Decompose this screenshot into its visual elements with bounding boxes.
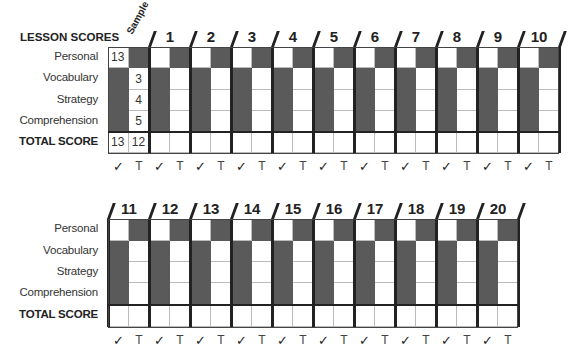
score-input-cell[interactable]	[272, 305, 293, 327]
score-input-cell[interactable]	[539, 68, 560, 90]
score-input-cell[interactable]	[293, 90, 314, 111]
score-input-cell[interactable]	[375, 283, 396, 305]
score-input-cell[interactable]	[293, 132, 314, 153]
score-input-cell[interactable]	[457, 305, 478, 327]
score-input-cell[interactable]	[252, 68, 273, 90]
score-input-cell[interactable]	[252, 132, 273, 153]
score-input-cell[interactable]	[416, 111, 437, 132]
score-input-cell[interactable]	[354, 132, 375, 153]
score-input-cell[interactable]	[170, 68, 191, 90]
score-input-cell[interactable]	[334, 262, 355, 283]
score-input-cell[interactable]	[252, 111, 273, 132]
score-input-cell[interactable]	[498, 68, 519, 90]
score-input-cell[interactable]	[211, 283, 232, 305]
score-input-cell[interactable]	[334, 111, 355, 132]
score-input-cell[interactable]	[395, 219, 416, 241]
score-input-cell[interactable]	[375, 132, 396, 153]
score-input-cell[interactable]	[457, 132, 478, 153]
score-input-cell[interactable]	[518, 47, 539, 68]
score-input-cell[interactable]	[252, 241, 273, 262]
score-input-cell[interactable]	[395, 132, 416, 153]
score-input-cell[interactable]	[129, 241, 150, 262]
score-input-cell[interactable]	[416, 283, 437, 305]
score-input-cell[interactable]	[129, 283, 150, 305]
score-input-cell[interactable]	[190, 219, 211, 241]
score-input-cell[interactable]	[436, 219, 457, 241]
score-input-cell[interactable]	[457, 283, 478, 305]
score-input-cell[interactable]	[334, 241, 355, 262]
score-input-cell[interactable]	[252, 283, 273, 305]
score-input-cell[interactable]	[313, 47, 334, 68]
score-input-cell[interactable]	[416, 68, 437, 90]
score-input-cell[interactable]	[231, 132, 252, 153]
score-input-cell[interactable]	[231, 47, 252, 68]
score-input-cell[interactable]	[498, 305, 519, 327]
score-input-cell[interactable]	[354, 219, 375, 241]
score-input-cell[interactable]	[498, 283, 519, 305]
score-input-cell[interactable]	[395, 305, 416, 327]
score-input-cell[interactable]	[457, 241, 478, 262]
score-input-cell[interactable]	[170, 90, 191, 111]
score-input-cell[interactable]	[108, 305, 129, 327]
score-input-cell[interactable]	[375, 111, 396, 132]
score-input-cell[interactable]	[457, 262, 478, 283]
score-input-cell[interactable]	[416, 90, 437, 111]
score-input-cell[interactable]	[170, 241, 191, 262]
score-input-cell[interactable]	[272, 47, 293, 68]
score-input-cell[interactable]	[190, 132, 211, 153]
score-input-cell[interactable]	[416, 132, 437, 153]
score-input-cell[interactable]	[457, 111, 478, 132]
score-input-cell[interactable]	[149, 132, 170, 153]
score-input-cell[interactable]	[149, 219, 170, 241]
score-input-cell[interactable]	[293, 262, 314, 283]
score-input-cell[interactable]	[190, 305, 211, 327]
score-input-cell[interactable]	[518, 132, 539, 153]
score-input-cell[interactable]	[170, 132, 191, 153]
score-input-cell[interactable]	[457, 90, 478, 111]
score-input-cell[interactable]	[293, 241, 314, 262]
score-input-cell[interactable]	[190, 47, 211, 68]
score-input-cell[interactable]	[149, 305, 170, 327]
score-input-cell[interactable]	[170, 111, 191, 132]
score-input-cell[interactable]	[272, 219, 293, 241]
score-input-cell[interactable]	[457, 68, 478, 90]
score-input-cell[interactable]	[477, 132, 498, 153]
score-input-cell[interactable]	[293, 283, 314, 305]
score-input-cell[interactable]	[477, 219, 498, 241]
score-input-cell[interactable]	[313, 219, 334, 241]
score-input-cell[interactable]	[416, 262, 437, 283]
score-input-cell[interactable]	[354, 47, 375, 68]
score-input-cell[interactable]	[334, 283, 355, 305]
score-input-cell[interactable]	[375, 262, 396, 283]
score-input-cell[interactable]	[108, 219, 129, 241]
score-input-cell[interactable]	[149, 47, 170, 68]
score-input-cell[interactable]	[293, 68, 314, 90]
score-input-cell[interactable]	[375, 241, 396, 262]
score-input-cell[interactable]	[539, 132, 560, 153]
score-input-cell[interactable]	[211, 305, 232, 327]
score-input-cell[interactable]	[293, 111, 314, 132]
score-input-cell[interactable]	[313, 305, 334, 327]
score-input-cell[interactable]	[334, 68, 355, 90]
score-input-cell[interactable]	[129, 262, 150, 283]
score-input-cell[interactable]	[498, 241, 519, 262]
score-input-cell[interactable]	[416, 241, 437, 262]
score-input-cell[interactable]	[293, 305, 314, 327]
score-input-cell[interactable]	[170, 283, 191, 305]
score-input-cell[interactable]	[539, 90, 560, 111]
score-input-cell[interactable]	[231, 219, 252, 241]
score-input-cell[interactable]	[170, 305, 191, 327]
score-input-cell[interactable]	[334, 132, 355, 153]
score-input-cell[interactable]	[211, 111, 232, 132]
score-input-cell[interactable]	[498, 132, 519, 153]
score-input-cell[interactable]	[231, 305, 252, 327]
score-input-cell[interactable]	[436, 132, 457, 153]
score-input-cell[interactable]	[211, 68, 232, 90]
score-input-cell[interactable]	[436, 305, 457, 327]
score-input-cell[interactable]	[211, 241, 232, 262]
score-input-cell[interactable]	[539, 111, 560, 132]
score-input-cell[interactable]	[354, 305, 375, 327]
score-input-cell[interactable]	[395, 47, 416, 68]
score-input-cell[interactable]	[375, 90, 396, 111]
score-input-cell[interactable]	[129, 305, 150, 327]
